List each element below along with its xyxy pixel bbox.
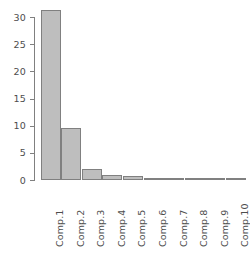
x-axis-label-comp-4: Comp.4 (117, 210, 127, 247)
scree-plot: 051015202530 Comp.1Comp.2Comp.3Comp.4Com… (0, 0, 250, 253)
bar-comp-1 (41, 10, 61, 181)
x-axis-label-comp-8: Comp.8 (199, 210, 209, 247)
x-axis-label-comp-7: Comp.7 (179, 210, 189, 247)
bar-comp-6 (144, 178, 164, 181)
x-axis-label-comp-3: Comp.3 (96, 210, 106, 247)
bar-comp-9 (205, 178, 225, 180)
x-axis-label-comp-5: Comp.5 (137, 210, 147, 247)
x-axis-label-comp-6: Comp.6 (158, 210, 168, 247)
bar-comp-4 (102, 175, 122, 180)
bar-comp-5 (123, 176, 143, 180)
x-axis-label-comp-10: Comp.10 (240, 203, 250, 247)
bar-comp-3 (82, 169, 102, 181)
x-axis-label-comp-1: Comp.1 (55, 210, 65, 247)
bar-comp-2 (61, 128, 81, 180)
x-axis-label-comp-2: Comp.2 (76, 210, 86, 247)
bar-comp-8 (185, 178, 205, 180)
bar-comp-7 (164, 178, 184, 180)
x-axis-label-comp-9: Comp.9 (220, 210, 230, 247)
bar-comp-10 (226, 178, 246, 180)
